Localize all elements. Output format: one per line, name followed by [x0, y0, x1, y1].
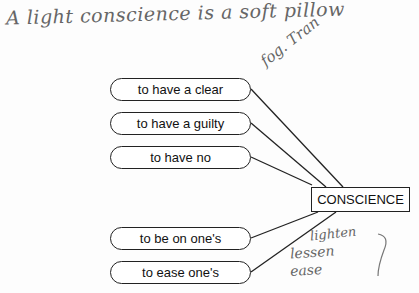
- collocation-box-guilty: to have a guilty: [110, 112, 251, 135]
- collocation-label: to ease one's: [142, 265, 219, 280]
- collocation-label: to be on one's: [140, 231, 221, 246]
- handwritten-synonym-ease: ease: [289, 261, 322, 279]
- collocation-label: to have a guilty: [137, 116, 224, 131]
- handwritten-synonym-lessen: lessen: [289, 242, 334, 261]
- collocation-label: to have no: [150, 150, 211, 165]
- collocation-box-clear: to have a clear: [110, 78, 251, 101]
- collocation-box-ease-ones: to ease one's: [110, 261, 251, 284]
- collocation-box-on-ones: to be on one's: [110, 227, 251, 250]
- central-concept-box: CONSCIENCE: [311, 187, 410, 212]
- collocation-label: to have a clear: [138, 82, 223, 97]
- central-concept-label: CONSCIENCE: [317, 192, 404, 207]
- collocation-box-no: to have no: [110, 146, 251, 169]
